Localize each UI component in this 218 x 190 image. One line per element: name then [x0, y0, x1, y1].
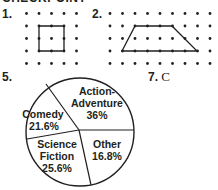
slice-label-comedy: Comedy — [22, 108, 64, 120]
grid-dot — [134, 62, 137, 65]
grid-dot — [121, 62, 124, 65]
grid-dot — [109, 50, 112, 53]
grid-dot — [209, 62, 212, 65]
grid-dot — [171, 12, 174, 15]
grid-dot — [209, 37, 212, 40]
dot-grid-2 — [109, 12, 212, 65]
grid-dot — [75, 62, 78, 65]
grid-dot — [196, 25, 199, 28]
slice-value-other: 16.8% — [92, 150, 122, 162]
figures: Action- Adventure 36% Comedy 21.6% Scien… — [0, 0, 218, 190]
grid-dot — [134, 12, 137, 15]
grid-dot — [159, 37, 162, 40]
grid-dot — [63, 12, 66, 15]
slice-value-scifi: 25.6% — [42, 162, 72, 174]
grid-dot — [184, 12, 187, 15]
grid-dot — [209, 12, 212, 15]
grid-dot — [159, 12, 162, 15]
grid-dot — [121, 25, 124, 28]
grid-dot — [75, 25, 78, 28]
grid-dot — [75, 12, 78, 15]
slice-label-adventure: Adventure — [71, 97, 123, 109]
grid-dot — [109, 62, 112, 65]
grid-dot — [25, 12, 28, 15]
pie-chart: Action- Adventure 36% Comedy 21.6% Scien… — [22, 78, 134, 186]
grid-dot — [109, 25, 112, 28]
slice-label-action: Action- — [79, 85, 116, 97]
grid-dot — [209, 50, 212, 53]
grid-dot — [171, 37, 174, 40]
grid-dot — [121, 37, 124, 40]
grid-dot — [109, 37, 112, 40]
grid-dot — [38, 12, 41, 15]
grid-dot — [121, 12, 124, 15]
dot-grid-1 — [25, 12, 78, 65]
grid-dot — [63, 62, 66, 65]
grid-dot — [134, 37, 137, 40]
grid-dot — [50, 37, 53, 40]
slice-label-fiction: Fiction — [40, 150, 74, 162]
slice-value-action: 36% — [86, 109, 108, 121]
grid-dot — [25, 50, 28, 53]
grid-dot — [25, 62, 28, 65]
slice-label-other: Other — [93, 138, 121, 150]
grid-dot — [209, 25, 212, 28]
grid-dot — [38, 62, 41, 65]
grid-dot — [146, 37, 149, 40]
grid-dot — [184, 62, 187, 65]
slice-value-comedy: 21.6% — [29, 120, 59, 132]
grid-dot — [184, 25, 187, 28]
grid-dot — [146, 62, 149, 65]
grid-dot — [146, 12, 149, 15]
grid-dot — [75, 37, 78, 40]
grid-dot — [50, 12, 53, 15]
grid-dot — [171, 62, 174, 65]
grid-dot — [75, 50, 78, 53]
grid-dot — [50, 62, 53, 65]
slice-label-science: Science — [37, 138, 77, 150]
grid-dot — [25, 25, 28, 28]
grid-dot — [196, 12, 199, 15]
grid-dot — [196, 37, 199, 40]
grid-dot — [196, 62, 199, 65]
grid-dot — [159, 62, 162, 65]
grid-dot — [25, 37, 28, 40]
grid-dot — [109, 12, 112, 15]
